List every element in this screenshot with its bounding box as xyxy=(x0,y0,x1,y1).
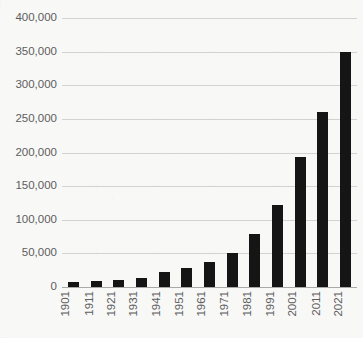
x-axis-tick-label: 1941 xyxy=(151,291,163,317)
x-axis-tick-label: 1991 xyxy=(265,291,277,317)
bar xyxy=(340,52,351,287)
bar-slot xyxy=(221,18,244,287)
x-axis-tick-slot: 1901 xyxy=(62,291,85,338)
x-axis-tick-slot: 1981 xyxy=(244,291,267,338)
bar xyxy=(159,272,170,287)
y-axis-tick-label: 150,000 xyxy=(0,180,57,192)
bar xyxy=(204,262,215,287)
y-axis-tick-label: 100,000 xyxy=(0,214,57,226)
bar xyxy=(91,281,102,287)
x-axis-tick-slot: 2011 xyxy=(312,291,335,338)
x-axis-tick-label: 1961 xyxy=(197,291,209,317)
bar xyxy=(136,278,147,287)
bar-slot xyxy=(266,18,289,287)
x-axis-tick-label: 1931 xyxy=(129,291,141,317)
bar-slot xyxy=(312,18,335,287)
bar-slot xyxy=(85,18,108,287)
bar-slot xyxy=(198,18,221,287)
x-axis-tick-slot: 2001 xyxy=(289,291,312,338)
bar-slot xyxy=(62,18,85,287)
x-axis-tick-label: 1971 xyxy=(219,291,231,317)
bar xyxy=(227,253,238,287)
bar-chart: 400,000350,000300,000250,000200,000150,0… xyxy=(0,0,363,338)
x-axis-tick-label: 2021 xyxy=(333,291,345,317)
x-axis-tick-label: 1911 xyxy=(84,291,96,316)
bar-slot xyxy=(289,18,312,287)
bar xyxy=(113,280,124,287)
bar xyxy=(317,112,328,287)
x-axis-tick-label: 1951 xyxy=(174,291,186,317)
y-axis-tick-label: 0 xyxy=(0,281,57,293)
x-axis-tick-label: 1981 xyxy=(242,291,254,317)
x-axis-tick-label: 1901 xyxy=(61,291,73,317)
bar-slot xyxy=(175,18,198,287)
x-axis-tick-slot: 1911 xyxy=(85,291,108,338)
bar xyxy=(181,268,192,288)
y-axis-tick-label: 350,000 xyxy=(0,46,57,58)
x-axis-tick-label: 2001 xyxy=(287,291,299,317)
bar-series xyxy=(62,18,357,287)
y-axis-tick-label: 50,000 xyxy=(0,248,57,260)
bar-slot xyxy=(130,18,153,287)
bar xyxy=(272,205,283,287)
bar-slot xyxy=(244,18,267,287)
x-axis-tick-slot: 1971 xyxy=(221,291,244,338)
bar-slot xyxy=(107,18,130,287)
y-axis-tick-label: 250,000 xyxy=(0,113,57,125)
x-axis-tick-slot: 2021 xyxy=(334,291,357,338)
y-axis-tick-label: 300,000 xyxy=(0,80,57,92)
x-axis-tick-label: 2011 xyxy=(311,291,323,316)
plot-area xyxy=(62,18,357,287)
y-axis-tick-label: 400,000 xyxy=(0,12,57,24)
y-axis-labels: 400,000350,000300,000250,000200,000150,0… xyxy=(0,0,57,338)
x-axis-tick-slot: 1941 xyxy=(153,291,176,338)
y-axis-tick-label: 200,000 xyxy=(0,147,57,159)
bar-slot xyxy=(153,18,176,287)
x-axis-labels: 1901191119211931194119511961197119811991… xyxy=(62,291,357,338)
bar-slot xyxy=(334,18,357,287)
x-axis-tick-label: 1921 xyxy=(106,291,118,317)
bar xyxy=(68,282,79,287)
bar xyxy=(249,234,260,287)
bar xyxy=(295,157,306,287)
axis-baseline xyxy=(62,287,357,288)
